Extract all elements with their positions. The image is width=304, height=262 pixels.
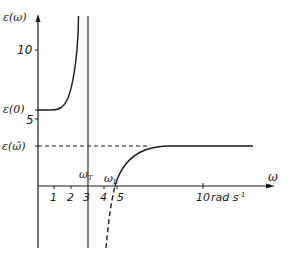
curve-above-omega-l — [115, 146, 253, 186]
eps-inf-label: ε(ω̃) — [2, 140, 25, 153]
omega-t-label: ωT — [79, 168, 94, 182]
y-tick-label-5: 5 — [26, 113, 34, 127]
omega-l-label: ωL — [104, 172, 118, 186]
x-axis-arrow-icon — [266, 184, 275, 189]
curve-below-omega-t — [38, 16, 79, 110]
curve-negative-dashed — [106, 186, 115, 248]
x-tick-label-3: 3 — [83, 191, 90, 204]
y-tick-label-10: 10 — [17, 43, 33, 57]
x-tick-label-10-unit: 10rad s-1 — [196, 191, 245, 204]
eps0-label: ε(0) — [3, 103, 24, 116]
y-axis-label: ε(ω) — [3, 11, 26, 24]
x-tick-label-4: 4 — [100, 191, 107, 204]
dielectric-function-chart: ε(ω) 10 ε(0) 5 ε(ω̃) ωT ωL 1 2 3 4 5 10r… — [0, 0, 304, 262]
x-tick-label-1: 1 — [50, 191, 57, 204]
x-axis-label: ω — [268, 170, 278, 184]
y-axis-arrow-icon — [36, 14, 41, 22]
x-tick-label-2: 2 — [67, 191, 74, 204]
x-tick-label-5: 5 — [117, 191, 124, 204]
